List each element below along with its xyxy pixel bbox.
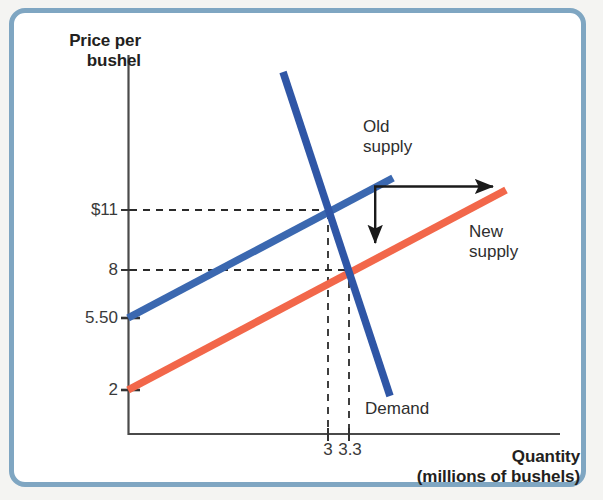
y-tick-label-550: 5.50 <box>42 308 118 328</box>
curve-label-new-supply: Newsupply <box>469 222 518 261</box>
curve-label-demand: Demand <box>365 399 429 419</box>
y-tick-label-8: 8 <box>62 260 118 280</box>
curve-label-old-supply-line2: supply <box>363 137 412 156</box>
y-axis-title-line2: bushel <box>87 51 141 70</box>
x-tick-label-33: 3.3 <box>330 440 370 460</box>
x-axis-title-line1: Quantity <box>512 447 580 466</box>
x-axis-title-line2: (millions of bushels) <box>417 467 580 486</box>
y-tick-label-11: $11 <box>62 200 118 220</box>
curve-old-supply <box>128 178 393 318</box>
y-tick-label-2: 2 <box>62 380 118 400</box>
y-axis-title: Price perbushel <box>69 31 141 70</box>
curve-label-new-supply-line1: New <box>469 222 503 241</box>
curve-label-new-supply-line2: supply <box>469 242 518 261</box>
y-axis-title-line1: Price per <box>69 31 141 50</box>
curve-label-old-supply: Oldsupply <box>363 117 412 156</box>
figure-container: Price perbushel Quantity(millions of bus… <box>0 0 603 500</box>
curve-label-old-supply-line1: Old <box>363 117 389 136</box>
